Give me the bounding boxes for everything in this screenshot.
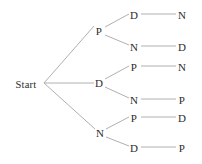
- tree-node-level2-3: N: [130, 95, 138, 106]
- tree-node-level1-1: D: [95, 78, 103, 89]
- tree-node-leaf-0: N: [178, 10, 186, 21]
- tree-node-leaf-5: P: [179, 143, 185, 154]
- tree-edge: [105, 35, 129, 45]
- tree-edge: [105, 87, 129, 98]
- tree-node-level2-0: D: [130, 10, 138, 21]
- tree-node-level2-1: N: [130, 42, 138, 53]
- tree-node-leaf-3: P: [179, 95, 185, 106]
- tree-node-start: Start: [16, 79, 37, 90]
- tree-node-level2-5: D: [130, 143, 138, 154]
- tree-edge: [106, 137, 129, 146]
- tree-node-leaf-2: N: [178, 62, 186, 73]
- tree-node-leaf-4: D: [178, 113, 186, 124]
- tree-node-level2-2: P: [131, 62, 137, 73]
- tree-edge: [44, 26, 94, 83]
- tree-node-level1-0: P: [96, 26, 102, 37]
- tree-edge: [106, 117, 129, 129]
- tree-node-leaf-1: D: [178, 42, 186, 53]
- tree-node-level1-2: N: [96, 128, 104, 139]
- tree-edge: [105, 66, 129, 79]
- tree-edge: [105, 14, 129, 27]
- tree-edge: [44, 83, 95, 129]
- tree-node-level2-4: P: [131, 113, 137, 124]
- probability-tree-diagram: StartPDNDNPNPDNDNPDP: [0, 0, 202, 164]
